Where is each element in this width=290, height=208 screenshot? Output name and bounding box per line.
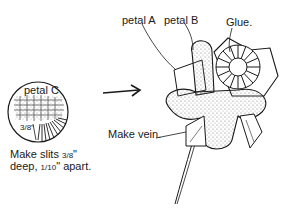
flower-diagram bbox=[0, 0, 290, 208]
label-glue: Glue. bbox=[226, 16, 252, 28]
caption-line-2-fraction: 1/10 bbox=[41, 163, 57, 172]
label-petal-c: petal C bbox=[24, 84, 59, 96]
fringe-center bbox=[216, 45, 260, 89]
label-slit-measure: 3/8" bbox=[20, 122, 34, 134]
caption-line-2: deep, 1/10" apart. bbox=[10, 160, 91, 174]
label-make-vein: Make vein. bbox=[108, 128, 161, 140]
flower-illustration bbox=[166, 38, 278, 204]
label-petal-a: petal A bbox=[122, 14, 156, 26]
label-petal-b: petal B bbox=[164, 14, 198, 26]
caption-line-1-suffix: " bbox=[73, 148, 77, 160]
caption-line-1-text: Make slits bbox=[10, 148, 62, 160]
caption-line-1-fraction: 3/8 bbox=[62, 151, 73, 160]
caption-line-2-suffix: " apart. bbox=[56, 160, 91, 172]
arrow-icon bbox=[103, 85, 140, 96]
caption-line-2-text: deep, bbox=[10, 160, 41, 172]
